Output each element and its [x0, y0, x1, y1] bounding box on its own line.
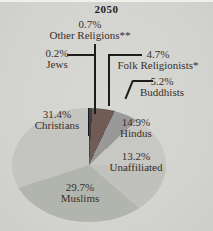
slice-name: Buddhists [102, 87, 213, 98]
slice-label-other-religions: 0.7% Other Religions** [30, 19, 150, 41]
slice-name: Other Religions** [30, 30, 150, 41]
slice-name: Muslims [20, 193, 140, 204]
pie-chart-figure: 2050 0.7% Other Religions** 4.7% Folk Re… [0, 0, 213, 231]
page-edge [0, 0, 213, 2]
slice-label-unaffiliated: 13.2% Unaffiliated [76, 151, 196, 173]
slice-label-christians: 31.4% Christians [0, 109, 117, 131]
chart-title: 2050 [0, 3, 213, 15]
slice-label-buddhists: 5.2% Buddhists [102, 76, 213, 98]
slice-label-muslims: 29.7% Muslims [20, 182, 140, 204]
slice-label-jews: 0.2% Jews [0, 48, 117, 70]
slice-name: Jews [0, 59, 117, 70]
slice-name: Christians [0, 120, 117, 131]
slice-name: Unaffiliated [76, 162, 196, 173]
